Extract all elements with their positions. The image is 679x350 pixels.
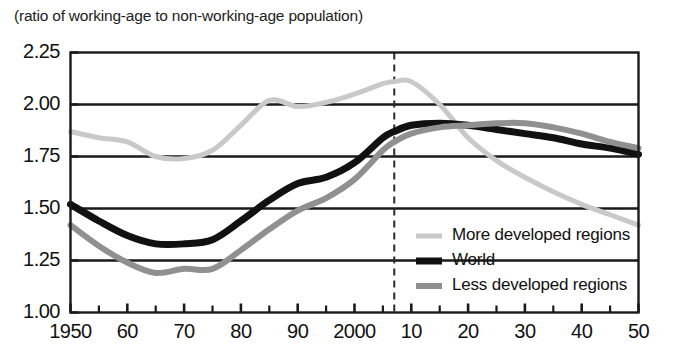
legend-item-label: More developed regions [452, 225, 630, 245]
x-axis-tick-label: 60 [117, 320, 138, 343]
x-axis-tick-label: 20 [457, 320, 478, 343]
y-axis-tick-label: 1.50 [2, 196, 60, 219]
x-axis-tick-label: 50 [628, 320, 649, 343]
y-axis-tick-label: 2.25 [2, 40, 60, 63]
x-axis-tick-label: 30 [514, 320, 535, 343]
legend-item-label: Less developed regions [452, 275, 627, 295]
x-axis-tick-label: 40 [571, 320, 592, 343]
chart-figure: (ratio of working-age to non-working-age… [0, 0, 679, 350]
y-axis-tick-label: 2.00 [2, 92, 60, 115]
y-axis-tick-label: 1.75 [2, 144, 60, 167]
x-axis-tick-label: 1950 [49, 320, 92, 343]
legend-item-label: World [452, 250, 495, 270]
legend-swatches [416, 236, 442, 286]
plot-area [0, 0, 679, 350]
y-axis-tick-label: 1.25 [2, 248, 60, 271]
x-axis-tick-label: 80 [230, 320, 251, 343]
x-axis-tick-label: 70 [173, 320, 194, 343]
x-axis-tick-label: 90 [287, 320, 308, 343]
x-axis-tick-label: 2000 [333, 320, 376, 343]
x-axis-tick-label: 10 [401, 320, 422, 343]
